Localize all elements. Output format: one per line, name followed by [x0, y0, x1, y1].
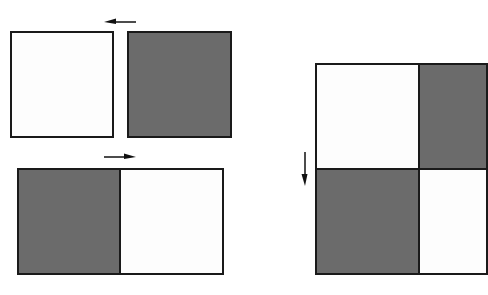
arrow-left-icon: [102, 16, 138, 28]
top-left-white-square: [10, 31, 114, 138]
arrow-down-icon: [299, 150, 311, 188]
bottom-left-dark-rect: [17, 168, 121, 275]
grid-top-left-white: [315, 63, 420, 170]
bottom-right-white-rect: [119, 168, 224, 275]
top-right-dark-square: [127, 31, 232, 138]
grid-bottom-right-white: [418, 168, 488, 275]
grid-bottom-left-dark: [315, 168, 420, 275]
grid-top-right-dark: [418, 63, 488, 170]
arrow-right-icon: [102, 151, 138, 163]
